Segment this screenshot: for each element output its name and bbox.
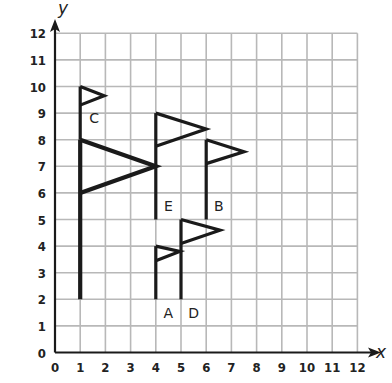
y-tick-label: 6 <box>38 186 46 201</box>
x-tick-label: 5 <box>177 360 185 375</box>
flag-label: B <box>214 198 224 214</box>
y-tick-label: 12 <box>30 26 46 41</box>
flag-triangle <box>206 140 244 164</box>
y-tick-label: 5 <box>38 213 46 228</box>
x-tick-label: 12 <box>349 360 365 375</box>
flag-label: D <box>188 305 199 321</box>
x-tick-label: 7 <box>227 360 235 375</box>
x-tick-label: 8 <box>253 360 261 375</box>
flag-triangle <box>156 246 180 261</box>
x-tick-label: 11 <box>324 360 340 375</box>
x-tick-label: 6 <box>202 360 210 375</box>
x-tick-labels: 0123456789101112 <box>51 360 366 375</box>
y-tick-label: 2 <box>38 292 46 307</box>
x-tick-label: 10 <box>299 360 315 375</box>
y-tick-label: 1 <box>38 319 46 334</box>
x-tick-label: 4 <box>152 360 160 375</box>
y-tick-label: 0 <box>38 346 46 361</box>
flag-D: D <box>181 220 220 321</box>
y-tick-labels: 0123456789101112 <box>30 26 46 360</box>
y-tick-label: 8 <box>38 133 46 148</box>
coordinate-grid-diagram: 0123456789101112 0123456789101112 x y CE… <box>0 0 392 383</box>
flag-label: E <box>164 198 173 214</box>
y-tick-label: 10 <box>30 80 46 95</box>
y-tick-label: 11 <box>30 53 46 68</box>
flag-B: B <box>206 140 244 220</box>
y-axis-label: y <box>57 0 69 18</box>
flag-triangle <box>181 220 220 244</box>
y-tick-label: 9 <box>38 106 46 121</box>
x-tick-label: 1 <box>76 360 84 375</box>
flag-A: A <box>156 246 180 321</box>
flag-triangle <box>80 87 104 106</box>
y-tick-label: 3 <box>38 266 46 281</box>
y-tick-label: 4 <box>38 239 46 254</box>
x-axis-label: x <box>375 342 387 362</box>
flag-C: C <box>80 110 156 299</box>
flag-label: C <box>89 110 99 126</box>
x-tick-label: 0 <box>51 360 59 375</box>
x-tick-label: 9 <box>278 360 286 375</box>
y-tick-label: 7 <box>38 159 46 174</box>
flag-label: A <box>164 305 174 321</box>
x-tick-label: 2 <box>101 360 109 375</box>
x-tick-label: 3 <box>127 360 135 375</box>
